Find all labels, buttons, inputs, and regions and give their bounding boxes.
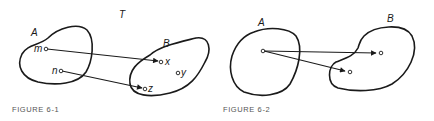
element-label-m: m [34, 43, 42, 54]
set-a-outline [231, 29, 300, 96]
set-label-b: B [387, 13, 394, 24]
point-n [59, 69, 63, 73]
set-b-outline [330, 27, 415, 91]
point-x [159, 60, 163, 64]
mapping-diagram-1: T A B m n x y z [0, 0, 215, 121]
element-label-y: y [180, 67, 187, 78]
point-m [44, 47, 48, 51]
point-y [176, 71, 180, 75]
figure-6-2: A B FIGURE 6-2 [214, 0, 434, 121]
set-label-a: A [30, 27, 38, 38]
figure-6-1: T A B m n x y z FIGURE 6-1 [0, 0, 215, 121]
element-label-x: x [164, 56, 171, 67]
point-b-lower [348, 70, 352, 74]
point-z [143, 87, 147, 91]
set-label-b: B [163, 38, 170, 49]
mapping-label-t: T [119, 9, 126, 20]
element-label-z: z [147, 83, 153, 94]
set-label-a: A [257, 17, 265, 28]
arrow-m-to-x [47, 49, 158, 61]
arrow-a-to-b-lower [264, 51, 345, 71]
figure-caption: FIGURE 6-1 [12, 105, 59, 114]
point-b-upper [379, 51, 383, 55]
figure-caption: FIGURE 6-2 [223, 105, 270, 114]
arrow-a-to-b-upper [264, 51, 376, 53]
point-a [261, 49, 265, 53]
mapping-diagram-2: A B [214, 0, 434, 121]
element-label-n: n [52, 65, 58, 76]
